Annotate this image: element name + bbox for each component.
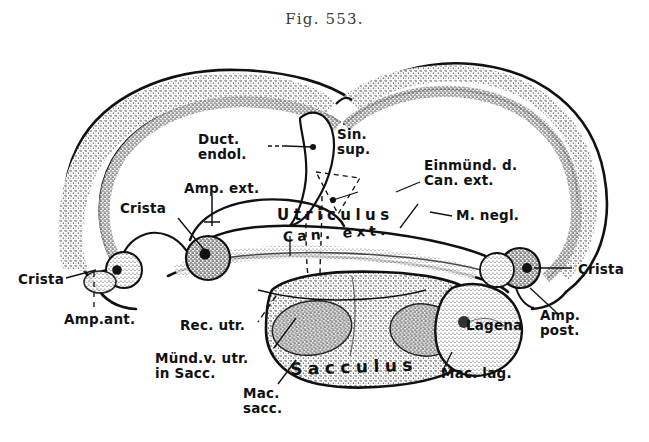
ampulla-posterior-neck — [516, 288, 534, 308]
leader-einmuend-a — [396, 182, 420, 192]
label-mac-sacc: Mac. sacc. — [243, 386, 282, 416]
label-crista-left-inner: Crista — [120, 201, 166, 216]
leader-m-negl — [430, 212, 452, 216]
label-lagena: Lagena — [466, 318, 522, 333]
leader-einmuend-b — [400, 204, 418, 228]
label-crista-far-right: Crista — [578, 262, 624, 277]
label-einmuend-can-ext: Einmünd. d. Can. ext. — [424, 158, 517, 188]
label-duct-endol: Duct. endol. — [198, 132, 247, 162]
label-mac-lag: Mac. lag. — [441, 366, 512, 381]
canal-crus-commune-notch — [336, 98, 352, 104]
label-amp-post: Amp. post. — [540, 308, 580, 338]
label-amp-ext: Amp. ext. — [184, 181, 259, 196]
label-utriculus: Utriculus — [277, 206, 394, 224]
label-crista-far-left: Crista — [18, 272, 64, 287]
label-amp-ant: Amp.ant. — [64, 312, 135, 327]
leader-sin-sup — [333, 192, 358, 200]
crista-ampullaris-posterior — [522, 263, 532, 273]
crista-ampullaris-anterior — [112, 265, 122, 275]
ampulla-anterior-base — [84, 271, 116, 293]
figure-canvas: Fig. 553. — [0, 0, 649, 442]
label-m-negl: M. negl. — [456, 208, 519, 223]
ampulla-posterior-companion — [480, 253, 514, 287]
leader-duct-endol-b — [286, 146, 312, 147]
label-muend-v-utr-in-sacc: Münd.v. utr. in Sacc. — [155, 351, 248, 381]
label-rec-utr: Rec. utr. — [180, 318, 245, 333]
leader-dot-duct-endol — [310, 144, 316, 150]
label-sin-sup: Sin. sup. — [337, 127, 370, 157]
